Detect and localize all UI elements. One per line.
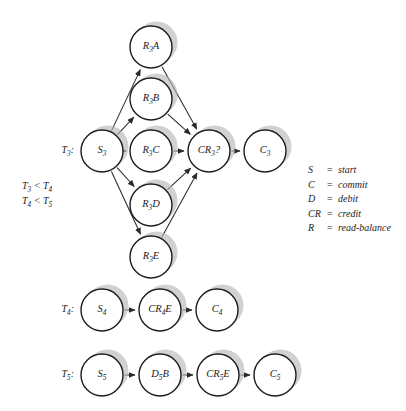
- row-label-T3: T3:: [62, 144, 75, 157]
- legend-entry-c: C=commit: [308, 179, 368, 190]
- nodes-layer: S3R3AR3BR3CR3DR3ECR3?C3S4CR4EC4S5D5BCR5E…: [81, 22, 302, 397]
- node-R3C: R3C: [130, 126, 178, 173]
- node-CR4E: CR4E: [139, 285, 187, 332]
- legend-equals-sign: =: [327, 222, 333, 233]
- legend-equals-sign: =: [327, 193, 333, 204]
- node-S3: S3: [81, 126, 129, 173]
- row-label-T5: T5:: [62, 368, 75, 381]
- edge-S3-to-R3D: [117, 168, 134, 187]
- legend-symbol-cr: CR: [308, 208, 321, 219]
- node-R3B: R3B: [130, 74, 178, 121]
- node-R3A: R3A: [130, 22, 178, 69]
- legend-symbol-r: R: [307, 222, 314, 233]
- row-labels-layer: T3:T4:T5:: [62, 144, 75, 381]
- legend-entry-cr: CR=credit: [308, 208, 361, 219]
- legend-entry-d: D=debit: [307, 193, 358, 204]
- legend-entry-s: S=start: [308, 164, 357, 175]
- legend-description-cr: credit: [338, 208, 361, 219]
- legend-equals-sign: =: [327, 208, 333, 219]
- legend-description-r: read-balance: [338, 222, 392, 233]
- edges-layer: [111, 67, 250, 375]
- edge-R3B-to-CR3: [168, 114, 191, 134]
- legend-equals-sign: =: [327, 164, 333, 175]
- legend-layer: S=startC=commitD=debitCR=creditR=read-ba…: [307, 164, 392, 233]
- node-C3: C3: [244, 126, 292, 173]
- legend-symbol-c: C: [308, 179, 315, 190]
- diagram-canvas: S3R3AR3BR3CR3DR3ECR3?C3S4CR4EC4S5D5BCR5E…: [0, 0, 406, 411]
- node-S5: S5: [81, 350, 129, 397]
- legend-description-s: start: [338, 164, 357, 175]
- row-label-T4: T4:: [62, 303, 75, 316]
- legend-entry-r: R=read-balance: [307, 222, 392, 233]
- ordering-constraint-2: T4 < T5: [22, 195, 52, 208]
- node-S4: S4: [81, 285, 129, 332]
- legend-description-d: debit: [338, 193, 358, 204]
- node-C4: C4: [196, 285, 244, 332]
- node-C5: C5: [254, 350, 302, 397]
- node-R3E: R3E: [130, 232, 178, 279]
- ordering-constraint-1: T3 < T4: [22, 180, 52, 193]
- node-R3D: R3D: [130, 180, 178, 227]
- legend-equals-sign: =: [327, 179, 333, 190]
- constraints-layer: T3 < T4T4 < T5: [22, 180, 52, 208]
- node-CR3: CR3?: [188, 126, 236, 173]
- legend-symbol-s: S: [308, 164, 313, 175]
- node-CR5E: CR5E: [197, 350, 245, 397]
- legend-symbol-d: D: [307, 193, 316, 204]
- legend-description-c: commit: [338, 179, 368, 190]
- node-D5B: D5B: [139, 350, 187, 397]
- transaction-schedule-diagram: S3R3AR3BR3CR3DR3ECR3?C3S4CR4EC4S5D5BCR5E…: [0, 0, 406, 411]
